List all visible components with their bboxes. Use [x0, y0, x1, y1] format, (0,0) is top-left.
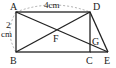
top-measure-label: 4cm	[44, 0, 60, 10]
label-c: C	[86, 55, 93, 66]
label-e: E	[104, 55, 110, 66]
left-measure-unit: cm	[1, 29, 12, 39]
label-f: F	[53, 33, 59, 44]
geometry-figure: A B C D E F G 4cm 2 cm	[0, 0, 116, 68]
diagonal-bd	[16, 12, 90, 52]
label-b: B	[10, 55, 17, 66]
label-g: G	[92, 36, 99, 47]
label-a: A	[10, 1, 18, 12]
label-d: D	[93, 1, 100, 12]
